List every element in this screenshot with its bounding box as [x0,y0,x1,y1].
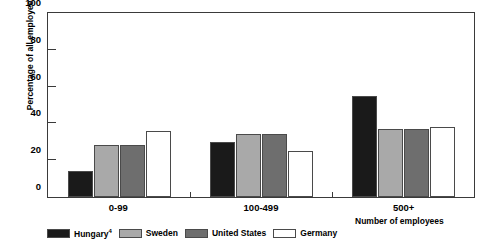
bar-hungary [210,142,235,197]
x-axis-label: Number of employees [355,216,444,226]
y-tick-label: 40 [16,107,48,118]
bar-hungary [352,96,377,197]
x-category-label: 0-99 [47,202,190,213]
bar-united-states [262,134,287,197]
legend-swatch-icon [185,229,208,238]
x-tick-mark [332,192,333,197]
y-tick-label: 100 [16,0,48,8]
legend-label: Germany [300,228,337,238]
x-axis-category-labels: 0-99100-499500+ [47,202,475,213]
bar-germany [430,127,455,197]
bar-united-states [120,145,145,197]
bar-groups [48,13,474,197]
legend-item-united-states[interactable]: United States [185,228,266,238]
legend-swatch-icon [47,229,70,238]
legend-label: United States [212,228,266,238]
legend-footnote-marker: 4 [108,228,111,234]
y-tick-label: 20 [16,144,48,155]
bar-group [48,13,190,197]
x-category-label: 100-499 [190,202,333,213]
bar-hungary [68,171,93,197]
legend-item-sweden[interactable]: Sweden [119,228,178,238]
y-tick-label: 0 [16,181,48,192]
bar-sweden [94,145,119,197]
bar-germany [146,131,171,197]
bar-group [190,13,332,197]
bar-germany [288,151,313,197]
plot-area: 020406080100 [47,12,475,198]
bar-united-states [404,129,429,197]
x-tick-mark [190,192,191,197]
legend-swatch-icon [273,229,296,238]
legend-item-germany[interactable]: Germany [273,228,337,238]
bar-group [332,13,474,197]
bar-chart: Percentage of all employees 020406080100… [0,0,486,247]
y-tick-label: 60 [16,70,48,81]
bar-sweden [236,134,261,197]
chart-legend: Hungary4SwedenUnited StatesGermany [47,228,347,239]
legend-item-hungary[interactable]: Hungary4 [47,228,112,239]
bar-sweden [378,129,403,197]
x-category-label: 500+ [332,202,475,213]
y-tick-label: 80 [16,33,48,44]
legend-label: Hungary4 [74,228,112,239]
legend-swatch-icon [119,229,142,238]
legend-label: Sweden [146,228,178,238]
